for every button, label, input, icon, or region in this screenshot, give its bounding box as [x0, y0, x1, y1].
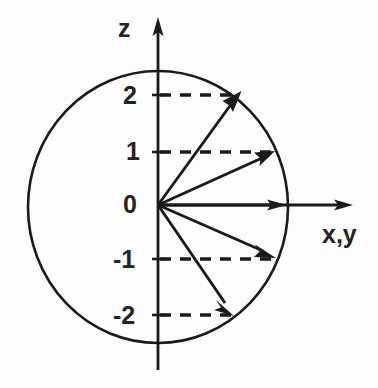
tick-label-level-1: 1 — [126, 139, 140, 164]
vector-diagram-canvas — [0, 0, 378, 388]
vector-m-plus-1 — [158, 151, 275, 205]
tick-label-level-minus-1: -1 — [113, 247, 135, 272]
vector-diagram-figure: z x,y 2 1 0 -1 -2 — [0, 0, 378, 388]
vector-m-zero — [158, 200, 287, 211]
tick-label-level-minus-2: -2 — [113, 303, 135, 328]
tick-label-origin: 0 — [123, 192, 137, 217]
vector-m-plus-1-arrowhead — [254, 151, 275, 166]
xy-axis-label: x,y — [322, 222, 357, 247]
vector-m-plus-2 — [158, 91, 242, 205]
z-axis-label: z — [118, 16, 131, 41]
vector-m-minus-1-arrowhead — [254, 245, 276, 259]
tick-label-level-2: 2 — [123, 83, 137, 108]
